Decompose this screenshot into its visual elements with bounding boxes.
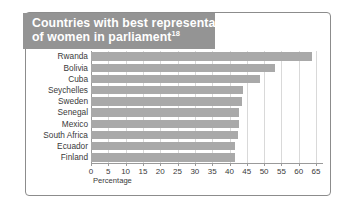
x-axis-tick-mark (126, 163, 127, 166)
bar (91, 142, 235, 150)
y-axis-category-labels: RwandaBoliviaCubaSeychellesSwedenSenegal… (0, 51, 88, 163)
bar (91, 64, 275, 72)
bar (91, 97, 242, 105)
x-axis-tick-mark (108, 163, 109, 166)
chart-title-footnote-marker: 18 (172, 29, 181, 38)
x-axis-tick-mark (247, 163, 248, 166)
x-axis-tick-mark (195, 163, 196, 166)
y-axis-label: Bolivia (0, 63, 88, 73)
chart-title-band: Countries with best representation of wo… (23, 13, 215, 49)
bar (91, 108, 239, 116)
x-axis-tick-mark (281, 163, 282, 166)
y-axis-label: Rwanda (0, 51, 88, 61)
bar-row (91, 73, 323, 84)
bar (91, 120, 239, 128)
bar (91, 153, 235, 161)
x-axis-tick-mark (160, 163, 161, 166)
bar (91, 75, 260, 83)
bar-row (91, 51, 323, 62)
x-axis-title: Percentage (93, 176, 132, 185)
x-axis-tick-mark (316, 163, 317, 166)
x-axis-tick-mark (91, 163, 92, 166)
x-axis-tick-mark (143, 163, 144, 166)
bar (91, 86, 243, 94)
x-axis-tick-mark (299, 163, 300, 166)
y-axis-label: Mexico (0, 119, 88, 129)
y-axis-label: Senegal (0, 107, 88, 117)
y-axis-label: Sweden (0, 96, 88, 106)
x-axis-tick-mark (212, 163, 213, 166)
y-axis-label: South Africa (0, 130, 88, 140)
plot-area (91, 51, 323, 163)
chart-title-line-2: of women in parliament18 (32, 31, 208, 45)
chart-title-line-2-text: of women in parliament (32, 30, 172, 44)
x-axis-tick-mark (178, 163, 179, 166)
bar-row (91, 96, 323, 107)
bar-row (91, 152, 323, 163)
bar-row (91, 107, 323, 118)
bar-row (91, 141, 323, 152)
y-axis-label: Finland (0, 152, 88, 162)
chart-title-line-1: Countries with best representation (32, 17, 208, 31)
bar-row (91, 85, 323, 96)
x-axis-tick-label: 65 (305, 167, 327, 176)
bar (91, 131, 238, 139)
x-axis-tick-mark (230, 163, 231, 166)
chart-figure: Countries with best representation of wo… (0, 0, 344, 210)
y-axis-label: Ecuador (0, 141, 88, 151)
bar-row (91, 129, 323, 140)
x-axis-tick-mark (264, 163, 265, 166)
bar (91, 52, 312, 60)
bar-row (91, 118, 323, 129)
y-axis-label: Cuba (0, 74, 88, 84)
y-axis-label: Seychelles (0, 85, 88, 95)
bar-row (91, 62, 323, 73)
